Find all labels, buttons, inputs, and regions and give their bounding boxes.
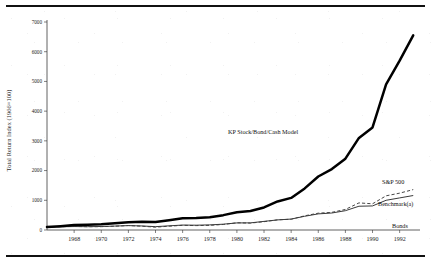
series-line-benchmark	[47, 196, 413, 228]
annotation-kp-model: KP Stock/Bond/Cash Model	[228, 128, 299, 135]
x-tick-label: 1992	[394, 236, 406, 242]
x-axis-ticks: 1968197019721974197619781980198219841986…	[68, 230, 406, 242]
annotation-bonds: Bonds	[392, 222, 408, 229]
x-tick-label: 1974	[150, 236, 162, 242]
line-chart: 01000200030004000500060007000 1968197019…	[0, 8, 431, 248]
figure-container: Total Return Index (1966=100) 0100020003…	[0, 0, 431, 263]
series-line-sp500	[47, 190, 413, 228]
x-tick-label: 1980	[231, 236, 243, 242]
top-rule	[6, 5, 425, 7]
y-tick-label: 2000	[32, 167, 43, 173]
y-tick-label: 6000	[32, 49, 43, 55]
y-tick-label: 4000	[32, 108, 43, 114]
annotation-benchmark: Benchmark(a)	[378, 200, 413, 208]
x-tick-label: 1982	[258, 236, 270, 242]
x-tick-label: 1970	[95, 236, 107, 242]
y-tick-label: 3000	[32, 138, 43, 144]
x-tick-label: 1976	[177, 236, 189, 242]
x-tick-label: 1972	[122, 236, 134, 242]
annotation-sp500: S&P 500	[382, 178, 404, 185]
x-tick-label: 1988	[339, 236, 351, 242]
x-tick-label: 1978	[204, 236, 216, 242]
y-tick-label: 0	[39, 227, 42, 233]
y-tick-label: 7000	[32, 19, 43, 25]
x-tick-label: 1990	[367, 236, 379, 242]
bottom-rule	[6, 255, 425, 257]
x-tick-label: 1984	[285, 236, 297, 242]
x-tick-label: 1986	[312, 236, 324, 242]
plot-area: Total Return Index (1966=100) 0100020003…	[0, 8, 431, 248]
y-axis-ticks: 01000200030004000500060007000	[32, 19, 47, 233]
y-tick-label: 5000	[32, 78, 43, 84]
x-tick-label: 1968	[68, 236, 80, 242]
y-tick-label: 1000	[32, 197, 43, 203]
